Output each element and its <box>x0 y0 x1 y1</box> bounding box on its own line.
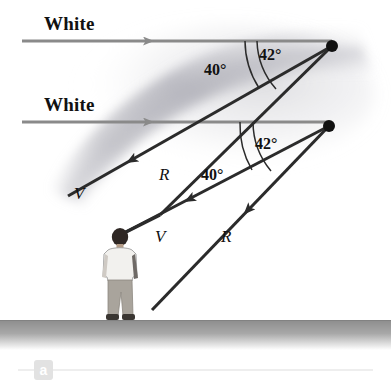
label-ray-v-lower: V <box>155 228 165 245</box>
label-white-lower: White <box>44 95 95 114</box>
observer-trousers <box>108 280 133 316</box>
raindrop-lower <box>323 120 335 132</box>
diagram-canvas <box>0 0 391 388</box>
label-ray-r-upper: R <box>159 166 169 183</box>
raindrop-upper <box>326 40 338 52</box>
rainbow-diagram-figure: White White 40° 42° 40° 42° V R V R a <box>0 0 391 388</box>
label-angle-42-upper: 42° <box>259 47 281 63</box>
ground <box>0 320 391 350</box>
label-ray-v-upper: V <box>74 185 84 202</box>
label-angle-40-upper: 40° <box>204 62 226 78</box>
observer-head <box>112 228 128 246</box>
label-ray-r-lower: R <box>221 228 231 245</box>
observer-shoe-left <box>106 314 119 320</box>
panel-label-badge: a <box>34 360 53 380</box>
label-angle-42-lower: 42° <box>255 136 277 152</box>
observer-figure <box>102 228 138 320</box>
label-white-upper: White <box>44 14 95 33</box>
label-angle-40-lower: 40° <box>201 167 223 183</box>
observer-shirt <box>103 248 137 281</box>
observer-shoe-right <box>122 314 135 320</box>
